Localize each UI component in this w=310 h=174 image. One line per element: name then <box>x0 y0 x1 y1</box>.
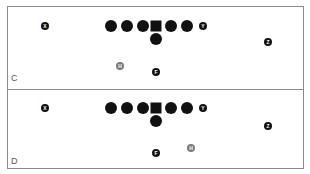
player-y: Y <box>199 104 207 112</box>
player-h: H <box>116 62 124 70</box>
player-x: X <box>41 22 49 30</box>
panel-d: X Y Z H F D <box>8 90 303 169</box>
panel-label-c: C <box>11 73 18 83</box>
lineman-6 <box>181 20 193 32</box>
panel-c: X Y Z H F C <box>8 7 303 90</box>
center-square <box>151 103 162 114</box>
player-h: H <box>187 144 195 152</box>
player-x: X <box>41 104 49 112</box>
lineman-3 <box>137 20 149 32</box>
lineman-2 <box>121 102 133 114</box>
player-z: Z <box>264 122 272 130</box>
player-f: F <box>152 68 160 76</box>
formation-diagram: X Y Z H F C X Y Z H F D <box>7 6 304 169</box>
quarterback <box>150 115 162 127</box>
quarterback <box>150 33 162 45</box>
player-y: Y <box>199 22 207 30</box>
player-f: F <box>152 149 160 157</box>
center-square <box>151 21 162 32</box>
lineman-3 <box>137 102 149 114</box>
panel-label-d: D <box>11 156 18 166</box>
lineman-2 <box>121 20 133 32</box>
player-z: Z <box>264 38 272 46</box>
lineman-6 <box>181 102 193 114</box>
lineman-1 <box>105 102 117 114</box>
lineman-5 <box>165 102 177 114</box>
lineman-1 <box>105 20 117 32</box>
lineman-5 <box>165 20 177 32</box>
